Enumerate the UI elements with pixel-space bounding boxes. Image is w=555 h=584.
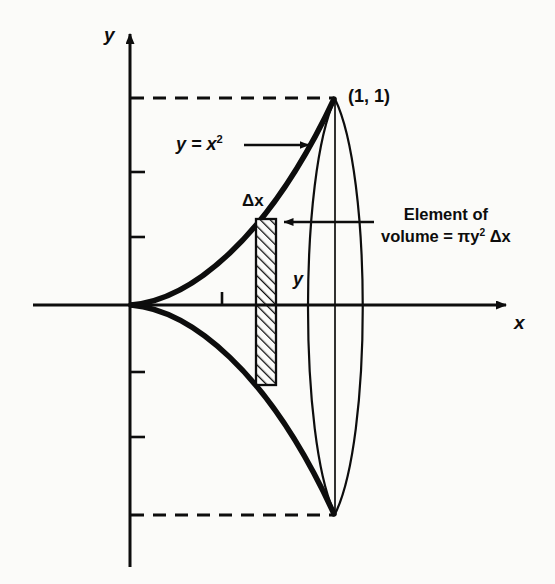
curve-equation-exponent: 2 xyxy=(217,133,223,145)
parabola-upper-curve xyxy=(131,99,334,305)
point-label-1-1: (1, 1) xyxy=(348,87,390,105)
diagram-svg xyxy=(0,0,555,584)
y-axis-label: y xyxy=(104,25,115,44)
parabola-lower-curve xyxy=(131,305,334,514)
curve-equation-label: y = x2 xyxy=(176,135,223,153)
element-strip-hatch xyxy=(256,219,276,385)
element-note-line2-suffix: Δx xyxy=(485,227,511,245)
delta-x-label: Δx xyxy=(242,192,264,209)
figure-canvas: y x (1, 1) y = x2 Δx y Element of volume… xyxy=(0,0,555,584)
element-note-line2: volume = πy2 Δx xyxy=(381,225,511,247)
element-note-line2-prefix: volume = πy xyxy=(381,227,479,245)
element-strip xyxy=(256,219,276,385)
element-of-volume-note: Element of volume = πy2 Δx xyxy=(381,203,511,248)
element-note-line1: Element of xyxy=(381,203,511,225)
curve-equation-text: y = x xyxy=(176,134,217,154)
strip-height-label: y xyxy=(293,270,303,288)
x-axis-label: x xyxy=(514,313,525,332)
